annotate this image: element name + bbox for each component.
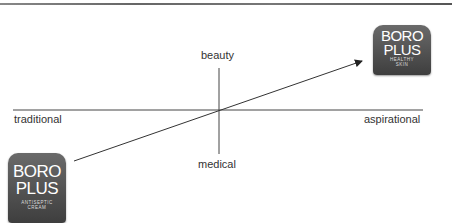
axis-label-beauty: beauty xyxy=(201,49,234,61)
boroplus-healthy-skin-logo: BORO PLUS HEALTHY SKIN xyxy=(373,25,431,75)
logo-tagline2: SKIN xyxy=(373,62,431,67)
logo-brand-line1: BORO xyxy=(8,163,66,180)
axis-label-medical: medical xyxy=(198,158,236,170)
axis-label-aspirational: aspirational xyxy=(364,113,420,125)
repositioning-arrow xyxy=(74,61,362,161)
logo-tagline2: CREAM xyxy=(8,205,66,210)
logo-brand-line2: PLUS xyxy=(373,43,431,57)
axis-label-traditional: traditional xyxy=(14,113,62,125)
logo-brand-line2: PLUS xyxy=(8,180,66,197)
boroplus-antiseptic-cream-logo: BORO PLUS ANTISEPTIC CREAM xyxy=(8,153,66,223)
